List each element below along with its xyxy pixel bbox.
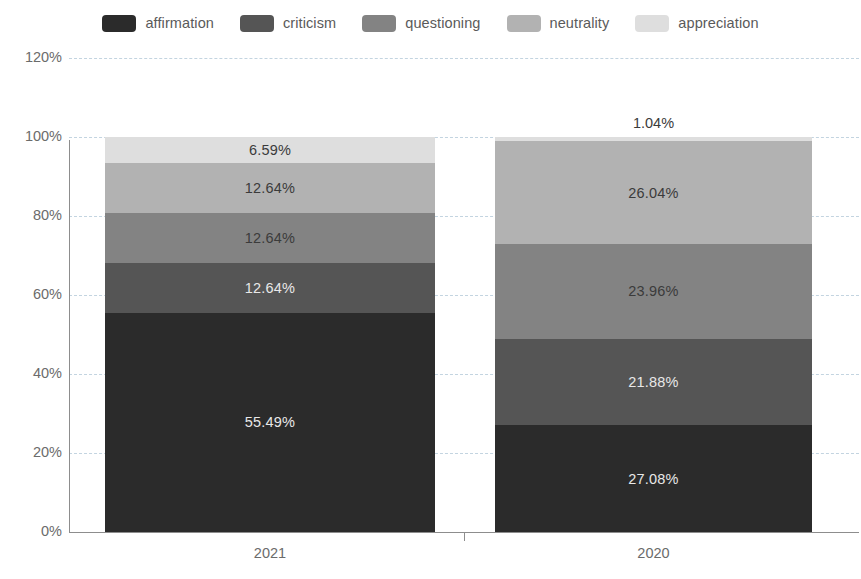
bar-segment-value-label: 26.04% [628, 185, 678, 201]
bar-segment-neutrality[interactable]: 26.04% [495, 141, 812, 244]
x-axis-tick-mark [464, 532, 465, 541]
bar-segment-value-label: 1.04% [495, 115, 812, 131]
stacked-bar: 55.49%12.64%12.64%12.64%6.59% [105, 137, 435, 532]
bar-segment-questioning[interactable]: 23.96% [495, 244, 812, 339]
bar-segment-value-label: 23.96% [628, 283, 678, 299]
bar-segment-appreciation[interactable]: 6.59% [105, 137, 435, 163]
gridline [69, 58, 859, 59]
x-tick-label-2021: 2021 [105, 545, 435, 561]
y-tick-label: 40% [4, 365, 62, 381]
y-tick-label: 0% [4, 523, 62, 539]
bar-segment-value-label: 12.64% [245, 230, 295, 246]
y-tick-label: 80% [4, 207, 62, 223]
bar-segment-value-label: 27.08% [628, 471, 678, 487]
bar-group-2021[interactable]: 55.49%12.64%12.64%12.64%6.59% [105, 137, 435, 532]
bar-segment-value-label: 12.64% [245, 280, 295, 296]
bar-segment-appreciation[interactable]: 1.04% [495, 137, 812, 141]
bar-segment-affirmation[interactable]: 27.08% [495, 425, 812, 532]
bar-segment-value-label: 55.49% [245, 414, 295, 430]
bar-segment-value-label: 12.64% [245, 180, 295, 196]
chart-plot-area: 120%100%80%60%40%20%0% 55.49%12.64%12.64… [0, 0, 861, 579]
bar-group-2020[interactable]: 27.08%21.88%23.96%26.04%1.04% [495, 137, 812, 532]
y-axis-line [69, 140, 70, 532]
y-tick-label: 20% [4, 444, 62, 460]
bar-segment-criticism[interactable]: 21.88% [495, 339, 812, 425]
bar-segment-neutrality[interactable]: 12.64% [105, 163, 435, 213]
bar-segment-criticism[interactable]: 12.64% [105, 263, 435, 313]
bar-segment-affirmation[interactable]: 55.49% [105, 313, 435, 532]
stacked-bar: 27.08%21.88%23.96%26.04%1.04% [495, 137, 812, 532]
x-tick-label-2020: 2020 [495, 545, 812, 561]
bar-segment-questioning[interactable]: 12.64% [105, 213, 435, 263]
y-tick-label: 60% [4, 286, 62, 302]
y-tick-label: 120% [4, 49, 62, 65]
bar-segment-value-label: 21.88% [628, 374, 678, 390]
y-tick-label: 100% [4, 128, 62, 144]
bar-segment-value-label: 6.59% [249, 142, 291, 158]
